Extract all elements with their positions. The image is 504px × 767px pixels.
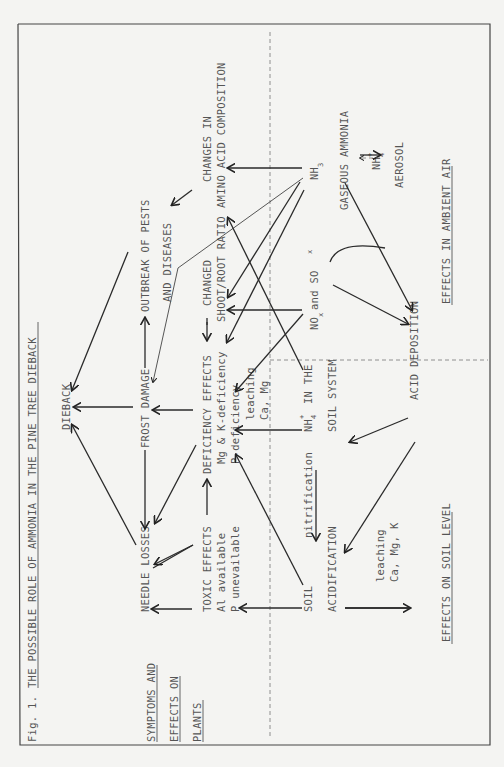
node-acid-deposition: ACID DEPOSITION <box>408 301 420 400</box>
node-aerosol: AEROSOL <box>393 142 405 188</box>
region-soil-label: EFFECTS ON SOIL LEVEL <box>440 503 452 642</box>
node-nox-sox: NO <box>308 317 320 330</box>
label-nitrification: nitrification <box>302 452 314 538</box>
node-soil-2: ACIDIFICATION <box>326 526 338 612</box>
node-deficiency-2: Mg & K-deficiency <box>215 351 227 464</box>
arrow <box>333 285 408 324</box>
figure-title: THE POSSIBLE ROLE OF AMMONIA IN THE PINE… <box>26 337 38 688</box>
node-soil-1: SOIL <box>302 586 314 613</box>
node-toxic-1: TOXIC EFFECTS <box>201 526 213 612</box>
node-gaseous-ammonia: GASEOUS AMMONIA <box>338 110 350 210</box>
leaching-bottom-1: leaching <box>374 529 386 582</box>
node-dieback: DIEBACK <box>60 383 72 430</box>
superscript: + <box>298 415 306 419</box>
arrow <box>236 314 303 391</box>
region-plants-label-1: SYMPTOMS AND <box>145 663 157 742</box>
subscript: x <box>317 313 325 317</box>
arrow <box>72 425 136 545</box>
leaching-bottom-2: Ca, Mg, K <box>388 522 400 582</box>
node-amino-1: CHANGES IN <box>201 116 213 182</box>
node-amino-2: AMINO ACID COMPOSITION <box>215 62 227 208</box>
node-nox-sox-2: and SO <box>308 270 320 310</box>
node-nh4-soil-2: IN THE <box>302 364 314 404</box>
curve <box>330 246 385 262</box>
subscript: 3 <box>317 163 325 167</box>
figure-caption: Fig. 1. <box>26 696 38 742</box>
arrow <box>228 218 303 370</box>
node-frost-damage: FROST DAMAGE <box>139 369 151 448</box>
node-deficiency-1: DEFICIENCY EFFECTS <box>201 355 213 474</box>
node-nh4-soil-3: SOIL SYSTEM <box>326 359 338 432</box>
node-pests-1: OUTBREAK OF PESTS <box>139 199 151 312</box>
arrow <box>155 445 196 523</box>
node-nh3: NH <box>308 167 320 180</box>
subscript: 4 <box>310 415 318 419</box>
arrow <box>227 190 304 342</box>
arrow <box>153 178 303 382</box>
node-nh4-soil: NH <box>302 419 314 432</box>
region-plants-label-2: EFFECTS ON <box>168 676 180 742</box>
arrow <box>155 545 193 564</box>
node-shoot-root-2: SHOOT/ROOT RATIO <box>215 216 227 322</box>
region-plants-label-3: PLANTS <box>191 702 203 742</box>
node-needle-losses: NEEDLE LOSSES <box>139 526 151 612</box>
region-air-label: EFFECTS IN AMBIENT AIR <box>440 158 452 304</box>
leaching-top-2: Ca, Mg <box>258 380 270 420</box>
node-pests-2: AND DISEASES <box>161 223 173 302</box>
node-shoot-root-1: CHANGED <box>201 260 213 306</box>
arrow <box>350 418 408 442</box>
arrow <box>72 252 128 390</box>
node-toxic-2: Al available <box>215 533 227 612</box>
arrow <box>172 190 192 205</box>
subscript: x <box>306 250 314 254</box>
node-deficiency-3: P-deficiency <box>229 385 241 464</box>
ammonia-dieback-diagram: Fig. 1. THE POSSIBLE ROLE OF AMMONIA IN … <box>0 0 504 767</box>
arrow <box>236 455 303 585</box>
node-toxic-3: P unevailable <box>229 526 241 612</box>
node-nh4-aerosol: NH <box>370 157 382 170</box>
